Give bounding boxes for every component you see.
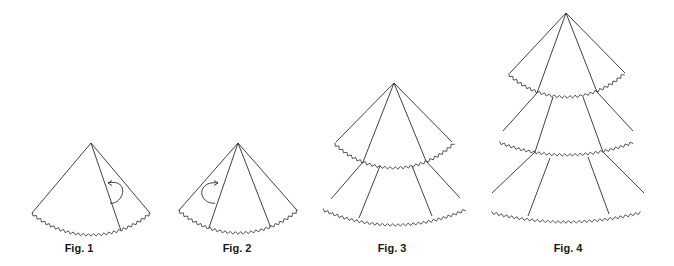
sector-right-edge <box>91 143 150 213</box>
figure-3 <box>323 83 466 226</box>
sector-right-edge <box>566 13 625 73</box>
tier-1 <box>509 13 625 98</box>
fold-line <box>537 13 566 93</box>
sector-left-edge <box>32 143 91 213</box>
zigzag-bottom-edge <box>180 210 297 235</box>
paper-tree-diagram <box>0 0 674 266</box>
sector-left-edge <box>336 83 394 142</box>
figure-2 <box>179 143 298 234</box>
fold-line <box>238 143 271 227</box>
zigzag-bottom-edge <box>500 141 634 156</box>
tier-3 <box>492 152 644 223</box>
sector-right-edge <box>603 152 644 193</box>
fig-1-label: Fig. 1 <box>65 242 94 254</box>
sector-right-edge <box>597 92 633 131</box>
sector-right-edge <box>394 83 452 142</box>
zigzag-bottom-edge <box>509 73 625 98</box>
fig-3-label: Fig. 3 <box>378 242 407 254</box>
sector-left-edge <box>492 152 535 193</box>
fold-line <box>363 83 394 162</box>
sector-right-edge <box>238 143 297 211</box>
fold-arrow-icon <box>202 183 218 204</box>
fold-line <box>209 143 238 228</box>
sector-left-edge <box>510 13 566 73</box>
fold-line <box>535 97 553 152</box>
fold-line <box>588 157 609 214</box>
fold-line <box>394 83 426 161</box>
zigzag-bottom-edge <box>492 211 641 223</box>
sector-left-edge <box>503 93 537 131</box>
fold-line <box>583 97 603 152</box>
zigzag-bottom-edge <box>33 212 150 236</box>
fold-line <box>412 166 432 216</box>
zigzag-bottom-edge <box>335 143 455 170</box>
tier-2 <box>500 92 634 156</box>
sector-left-edge <box>179 143 238 211</box>
fold-line <box>528 158 550 216</box>
fold-line <box>91 143 121 230</box>
fig-4-label: Fig. 4 <box>554 242 583 254</box>
tier-2 <box>323 161 466 226</box>
fold-line <box>566 13 597 92</box>
fig-2-label: Fig. 2 <box>223 242 252 254</box>
sector-left-edge <box>331 162 363 199</box>
zigzag-bottom-edge <box>323 209 466 227</box>
figure-4 <box>492 13 644 223</box>
sector-right-edge <box>426 161 460 198</box>
fold-line <box>359 166 380 218</box>
figure-1 <box>32 143 151 236</box>
tier-1 <box>335 83 455 169</box>
